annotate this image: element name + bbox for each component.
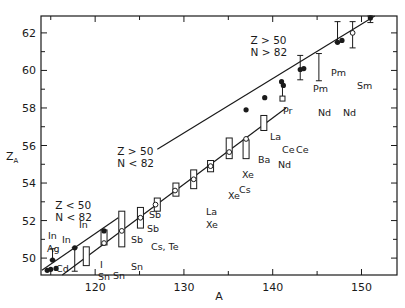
plot-frame [41, 16, 397, 275]
range-bar [226, 138, 232, 159]
point-annotation: Nd [318, 107, 331, 118]
point-annotation: Nd [278, 159, 291, 170]
filled-data-point [48, 267, 53, 272]
point-annotation: Sm [357, 80, 372, 91]
point-annotation: Pm [331, 67, 346, 78]
filled-data-point [101, 228, 106, 233]
y-tick-label: 58 [22, 102, 36, 115]
point-annotation: La [206, 206, 217, 217]
point-annotation: Cs, Te [151, 241, 179, 252]
point-annotation: Xe [242, 169, 254, 180]
point-annotation: Sb [147, 223, 159, 234]
point-annotation: Ag [47, 243, 60, 254]
region-label-n: N > 82 [251, 46, 288, 58]
point-annotation: In [79, 219, 88, 230]
y-tick-label: 56 [22, 140, 36, 153]
point-annotation: Sn [113, 270, 125, 281]
point-annotation: Sb [131, 234, 143, 245]
region-label-z: Z > 50 [117, 145, 153, 157]
open-data-point [173, 188, 178, 193]
y-tick-label: 60 [22, 64, 36, 77]
point-annotation: Xe [206, 219, 218, 230]
point-annotation: Pr [283, 105, 293, 116]
open-data-point [119, 228, 124, 233]
range-bar [243, 140, 249, 159]
filled-data-point [262, 95, 267, 100]
open-data-point [153, 202, 158, 207]
point-annotation: Sb [149, 209, 161, 220]
filled-data-point [72, 245, 77, 250]
range-bar [261, 115, 267, 130]
filled-data-point [368, 15, 373, 20]
open-data-point [208, 164, 213, 169]
x-tick-label: 120 [85, 281, 106, 294]
point-annotation: In [48, 230, 57, 241]
plot-area: 12013014015050525456586062AZAZ < 50N < 8… [0, 0, 405, 308]
open-data-point [138, 215, 143, 220]
range-bar [83, 247, 89, 266]
open-square-point [280, 96, 285, 101]
open-data-point [244, 137, 249, 142]
x-tick-label: 140 [262, 281, 283, 294]
x-tick-label: 150 [351, 281, 372, 294]
region-label-n: N < 82 [117, 157, 154, 169]
region-label-z: Z > 50 [251, 34, 287, 46]
point-annotation: I [100, 259, 103, 270]
chart: 12013014015050525456586062AZAZ < 50N < 8… [0, 0, 405, 308]
filled-data-point [301, 66, 306, 71]
open-data-point [227, 150, 232, 155]
point-annotation: Cd [56, 263, 69, 274]
point-annotation: Sn [98, 271, 110, 282]
x-axis-title: A [215, 290, 223, 303]
point-annotation: In [62, 234, 71, 245]
y-tick-label: 62 [22, 27, 36, 40]
point-annotation: Ce [296, 144, 309, 155]
open-data-point [191, 177, 196, 182]
point-annotation: Sn [131, 261, 143, 272]
point-annotation: Ba [258, 154, 270, 165]
point-annotation: Pm [313, 83, 328, 94]
filled-data-point [243, 107, 248, 112]
point-annotation: La [270, 131, 281, 142]
point-annotation: Nd [343, 107, 356, 118]
y-tick-label: 50 [22, 252, 36, 265]
y-axis-title: ZA [6, 150, 19, 165]
y-tick-label: 52 [22, 215, 36, 228]
filled-data-point [50, 257, 55, 262]
filled-data-point [281, 83, 286, 88]
open-data-point [350, 30, 355, 35]
filled-data-point [335, 40, 340, 45]
open-data-point [102, 241, 107, 246]
point-annotation: Ce [282, 144, 295, 155]
x-tick-label: 130 [173, 281, 194, 294]
point-annotation: Cs [239, 184, 251, 195]
y-tick-label: 54 [22, 177, 36, 190]
filled-data-point [339, 38, 344, 43]
region-label-z: Z < 50 [55, 199, 91, 211]
y-axis-subscript: A [14, 157, 19, 165]
